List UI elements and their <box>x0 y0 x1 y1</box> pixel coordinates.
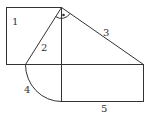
label-1: 1 <box>12 16 18 27</box>
geometry-diagram: 1 2 3 4 5 <box>0 0 148 113</box>
label-3: 3 <box>103 27 109 38</box>
right-angle-dot <box>62 14 65 17</box>
label-2: 2 <box>41 42 47 53</box>
arc-4 <box>26 65 62 102</box>
segment-2 <box>26 8 62 65</box>
rectangle-5 <box>62 65 144 102</box>
label-5: 5 <box>101 103 107 113</box>
label-4: 4 <box>24 84 30 95</box>
